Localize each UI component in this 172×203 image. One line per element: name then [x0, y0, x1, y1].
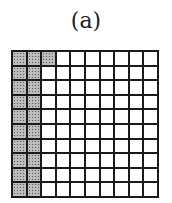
grid-cell — [71, 169, 84, 182]
grid-cell — [144, 154, 157, 167]
grid-cell — [71, 154, 84, 167]
grid-cell — [57, 52, 70, 65]
grid-cell — [101, 154, 114, 167]
grid-cell — [71, 81, 84, 94]
shaded-cell — [28, 81, 41, 94]
shaded-cell — [13, 67, 26, 80]
grid-cell — [42, 169, 55, 182]
shaded-cell — [28, 67, 41, 80]
grid-cell — [71, 52, 84, 65]
grid-cell — [57, 125, 70, 138]
grid-cell — [71, 140, 84, 153]
shaded-cell — [28, 154, 41, 167]
grid-cell — [130, 125, 143, 138]
shaded-cell — [13, 169, 26, 182]
shaded-cell — [13, 125, 26, 138]
shaded-cell — [28, 183, 41, 196]
grid-cell — [71, 125, 84, 138]
grid-cell — [130, 140, 143, 153]
shaded-cell — [13, 52, 26, 65]
grid-cell — [144, 169, 157, 182]
grid-cell — [71, 110, 84, 123]
grid-cell — [115, 154, 128, 167]
grid-cell — [101, 52, 114, 65]
grid-cell — [86, 110, 99, 123]
grid-cell — [115, 96, 128, 109]
grid-cell — [42, 154, 55, 167]
grid-cell — [57, 81, 70, 94]
grid-cell — [57, 183, 70, 196]
grid-cell — [42, 81, 55, 94]
grid-cell — [115, 81, 128, 94]
grid-cell — [144, 110, 157, 123]
grid-cell — [71, 67, 84, 80]
shaded-cell — [13, 110, 26, 123]
grid-cell — [57, 169, 70, 182]
grid-cell — [101, 169, 114, 182]
grid-cell — [86, 67, 99, 80]
grid-cell — [130, 154, 143, 167]
grid-cell — [101, 96, 114, 109]
grid-cell — [144, 183, 157, 196]
shaded-cell — [28, 125, 41, 138]
grid-cell — [71, 96, 84, 109]
grid-cell — [130, 183, 143, 196]
grid-cell — [57, 110, 70, 123]
grid-cell — [57, 154, 70, 167]
grid-cell — [86, 81, 99, 94]
grid-cell — [86, 140, 99, 153]
grid-cell — [86, 154, 99, 167]
shaded-cell — [13, 140, 26, 153]
shaded-cell — [28, 169, 41, 182]
grid-cell — [144, 140, 157, 153]
grid-cell — [42, 67, 55, 80]
shaded-cell — [28, 52, 41, 65]
grid-cell — [101, 81, 114, 94]
shaded-cell — [28, 140, 41, 153]
shaded-cell — [42, 52, 55, 65]
grid-cell — [101, 140, 114, 153]
grid-cell — [130, 81, 143, 94]
grid-cell — [115, 67, 128, 80]
grid-cell — [57, 67, 70, 80]
shaded-cell — [28, 110, 41, 123]
grid-cell — [115, 169, 128, 182]
grid-cell — [115, 125, 128, 138]
grid-cell — [101, 67, 114, 80]
shaded-cell — [28, 96, 41, 109]
grid-cell — [144, 52, 157, 65]
grid-cell — [42, 110, 55, 123]
grid-cell — [42, 183, 55, 196]
grid-cell — [86, 169, 99, 182]
figure-label: (a) — [0, 6, 172, 36]
shaded-cell — [13, 183, 26, 196]
grid-cell — [86, 96, 99, 109]
grid-cell — [144, 96, 157, 109]
grid-cell — [115, 110, 128, 123]
grid-cell — [57, 96, 70, 109]
grid-cell — [57, 140, 70, 153]
grid-cell — [86, 125, 99, 138]
grid-cell — [144, 125, 157, 138]
grid-cell — [42, 125, 55, 138]
grid-cell — [115, 183, 128, 196]
hundred-grid — [11, 50, 159, 198]
grid-cell — [144, 67, 157, 80]
grid-cell — [130, 52, 143, 65]
grid-cell — [130, 110, 143, 123]
grid-cell — [101, 183, 114, 196]
shaded-cell — [13, 96, 26, 109]
grid-cell — [130, 67, 143, 80]
grid-cell — [144, 81, 157, 94]
grid-cell — [86, 183, 99, 196]
grid-cell — [130, 169, 143, 182]
grid-cell — [42, 96, 55, 109]
shaded-cell — [13, 154, 26, 167]
shaded-cell — [13, 81, 26, 94]
grid-cell — [86, 52, 99, 65]
grid-cell — [101, 125, 114, 138]
grid-cell — [130, 96, 143, 109]
grid-cell — [115, 52, 128, 65]
grid-cell — [115, 140, 128, 153]
grid-cell — [101, 110, 114, 123]
